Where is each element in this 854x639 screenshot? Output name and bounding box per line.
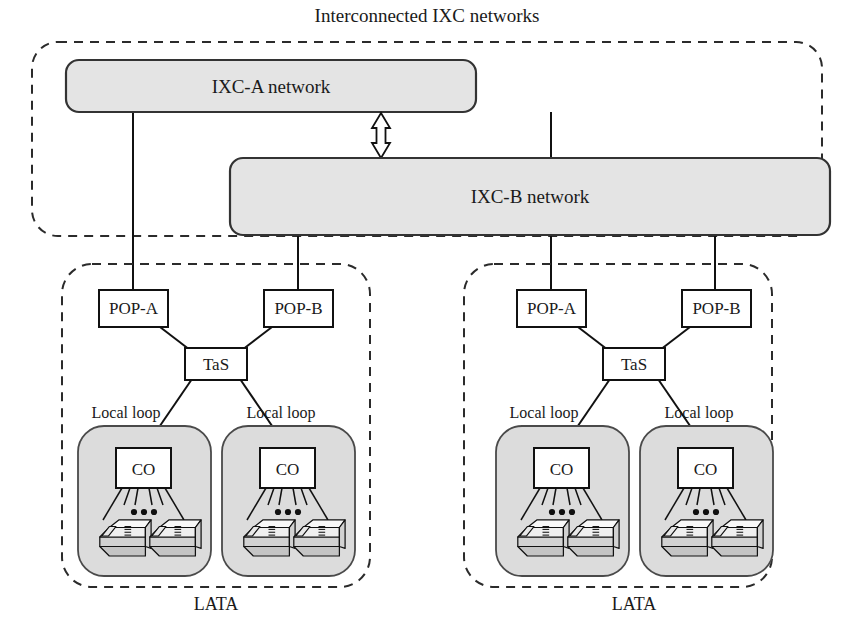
ixc-a-network-label: IXC-A network (212, 76, 331, 97)
link-right-pop-a-to-tas (578, 327, 608, 350)
lata-right-region: POP-A POP-B TaS Local loop CO (464, 264, 773, 614)
lata-left-local-loop-1-label: Local loop (92, 404, 161, 422)
lata-right-tas-label: TaS (621, 355, 647, 374)
lata-left-label: LATA (194, 594, 239, 614)
lata-left-co-1-label: CO (132, 460, 156, 479)
link-right-pop-b-to-tas (660, 327, 690, 350)
lata-left-tas-label: TaS (203, 355, 229, 374)
figure-title: Interconnected IXC networks (315, 5, 540, 26)
lata-left-region: POP-A POP-B TaS Local loop CO (62, 264, 370, 614)
lata-left-pop-a-label: POP-A (109, 299, 159, 318)
lata-right-local-loop-1-label: Local loop (510, 404, 579, 422)
lata-right-co-1-label: CO (550, 460, 574, 479)
ixc-b-network-label: IXC-B network (471, 186, 590, 207)
link-left-pop-a-to-tas (160, 327, 190, 350)
diagram-svg: Interconnected IXC networks IXC-A networ… (0, 0, 854, 639)
ellipsis-icon (693, 509, 719, 515)
ellipsis-icon (275, 509, 301, 515)
lata-left-co-2-label: CO (276, 460, 300, 479)
lata-right-local-loop-2-label: Local loop (665, 404, 734, 422)
lata-right-pop-a-label: POP-A (527, 299, 577, 318)
ellipsis-icon (549, 509, 575, 515)
ellipsis-icon (131, 509, 157, 515)
lata-left-pop-b-label: POP-B (274, 299, 322, 318)
lata-left-local-loop-2-label: Local loop (247, 404, 316, 422)
double-headed-arrow-icon (372, 113, 390, 158)
lata-right-pop-b-label: POP-B (692, 299, 740, 318)
lata-right-label: LATA (612, 594, 657, 614)
network-diagram-canvas: Interconnected IXC networks IXC-A networ… (0, 0, 854, 639)
link-left-pop-b-to-tas (242, 327, 272, 350)
lata-right-co-2-label: CO (694, 460, 718, 479)
